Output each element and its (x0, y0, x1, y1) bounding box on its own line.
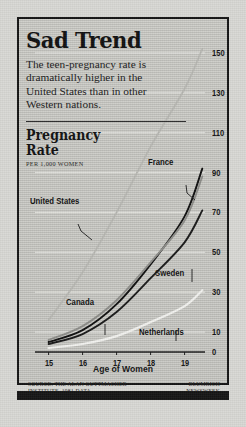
y-tick-label: 110 (212, 128, 224, 138)
chart-heading: Pregnancy Rate (26, 128, 100, 157)
infographic-page: Sad Trend The teen-pregnancy rate is dra… (0, 0, 246, 427)
series-label-netherlands: Netherlands (139, 327, 184, 337)
intro-paragraph: The teen-pregnancy rate is dramatically … (26, 58, 158, 112)
series-label-united-states: United States (30, 196, 79, 206)
artist-name: BLUMRICH (186, 381, 220, 388)
chart-heading-line2: Rate (26, 143, 100, 158)
y-tick-label: 90 (212, 168, 220, 178)
y-tick-label: 70 (212, 207, 220, 217)
bottom-bar (17, 391, 229, 400)
divider-rule (26, 121, 186, 122)
y-tick-label: 150 (212, 48, 225, 58)
y-tick-label: 30 (212, 287, 220, 297)
series-label-canada: Canada (66, 297, 94, 307)
page-title: Sad Trend (26, 28, 141, 51)
y-tick-label: 50 (212, 247, 220, 257)
y-tick-label: 130 (212, 88, 225, 98)
y-tick-label: 0 (212, 347, 216, 357)
y-tick-label: 10 (212, 327, 220, 337)
x-axis-title: Age of Women (0, 364, 246, 374)
chart-units-label: PER 1,000 WOMEN (26, 160, 84, 167)
series-label-sweden: Sweden (155, 268, 184, 278)
series-label-france: France (148, 157, 173, 167)
chart-heading-line1: Pregnancy (26, 128, 100, 143)
